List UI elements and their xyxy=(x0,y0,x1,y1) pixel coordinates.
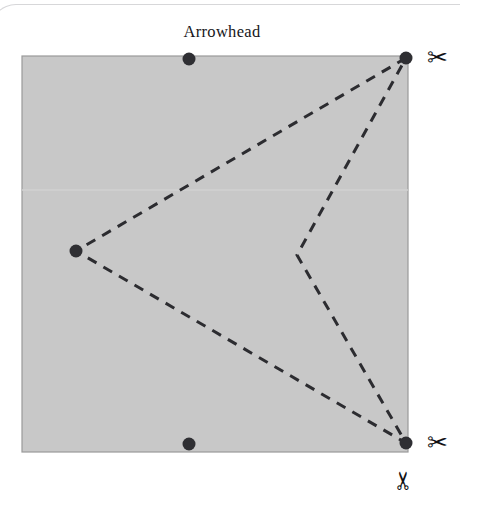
scissors-icon-bottom-right: ✂ xyxy=(427,430,448,455)
dot-left-tip xyxy=(70,245,83,258)
scissors-icon-top-right: ✂ xyxy=(427,45,448,70)
dot-top-middle xyxy=(183,53,196,66)
dot-top-right xyxy=(400,52,413,65)
arrowhead-diagram xyxy=(0,0,485,515)
scissors-icon-bottom: ✂ xyxy=(391,470,416,491)
dot-bottom-right xyxy=(400,437,413,450)
figure-page: Arrowhead ✂ ✂ ✂ xyxy=(0,0,485,515)
dot-bottom-middle xyxy=(183,438,196,451)
